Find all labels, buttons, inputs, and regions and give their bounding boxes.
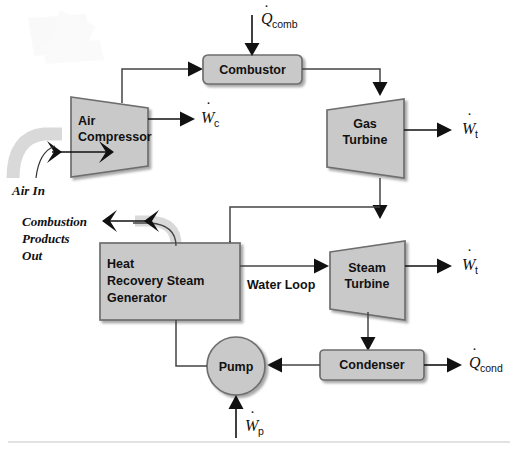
process-flow-diagram: Air Compressor Air In Combustor · Q bbox=[0, 0, 518, 454]
hrsg-to-steam-turbine-line bbox=[240, 259, 329, 274]
q-cond-arrow bbox=[424, 358, 462, 373]
condenser-to-pump-line bbox=[267, 358, 320, 373]
hrsg[interactable]: Heat Recovery Steam Generator bbox=[100, 243, 240, 320]
gas-turbine-label-line1: Gas bbox=[353, 117, 377, 131]
steam-turbine-label-line1: Steam bbox=[348, 261, 386, 275]
cpo-line3: Out bbox=[22, 248, 43, 263]
w-t-gas-symbol: · W t bbox=[462, 106, 478, 140]
cpo-line1: Combustion bbox=[22, 214, 87, 229]
q-comb-symbol: · Q comb bbox=[261, 0, 298, 30]
pump[interactable]: Pump bbox=[207, 337, 265, 395]
air-compressor-label-line1: Air bbox=[78, 114, 96, 128]
w-c-arrow bbox=[148, 112, 195, 127]
hrsg-label-line1: Heat bbox=[107, 257, 135, 271]
q-cond-subscript: cond bbox=[480, 362, 503, 374]
q-comb-subscript: comb bbox=[272, 18, 298, 30]
combustor-label: Combustor bbox=[219, 63, 286, 77]
q-cond-symbol: · Q cond bbox=[469, 341, 503, 374]
w-p-arrow bbox=[229, 395, 244, 438]
w-t-steam-subscript: t bbox=[475, 264, 478, 276]
steam-turbine-label-line2: Turbine bbox=[345, 277, 390, 291]
w-t-steam-symbol: · W t bbox=[462, 242, 478, 276]
pump-to-hrsg-line bbox=[176, 320, 207, 366]
background-watermark bbox=[28, 10, 104, 64]
w-p-subscript: p bbox=[258, 425, 264, 437]
q-comb-arrow bbox=[245, 15, 260, 56]
air-compressor[interactable]: Air Compressor bbox=[71, 97, 152, 177]
hrsg-label-line3: Generator bbox=[107, 291, 167, 305]
gas-turbine[interactable]: Gas Turbine bbox=[327, 99, 404, 178]
condenser[interactable]: Condenser bbox=[320, 350, 424, 380]
steam-turbine[interactable]: Steam Turbine bbox=[330, 241, 405, 320]
pump-label: Pump bbox=[219, 360, 254, 374]
w-t-steam-arrow bbox=[405, 259, 452, 274]
w-c-symbol: · W c bbox=[201, 95, 219, 129]
combustion-products-out-label: Combustion Products Out bbox=[22, 214, 87, 263]
w-t-gas-subscript: t bbox=[475, 128, 478, 140]
compressor-to-combustor-line bbox=[122, 62, 203, 104]
w-c-subscript: c bbox=[214, 117, 219, 129]
air-in-label: Air In bbox=[11, 183, 45, 198]
diagram-canvas: Air Compressor Air In Combustor · Q bbox=[0, 0, 518, 454]
steam-turbine-to-condenser-line bbox=[361, 312, 376, 351]
condenser-label: Condenser bbox=[339, 358, 404, 372]
w-p-symbol: · W p bbox=[245, 404, 264, 437]
cpo-line2: Products bbox=[22, 231, 70, 246]
water-loop-label: Water Loop bbox=[247, 278, 316, 292]
w-t-gas-arrow bbox=[404, 123, 452, 138]
combustor[interactable]: Combustor bbox=[203, 55, 302, 84]
combustor-to-gas-turbine-line bbox=[302, 69, 388, 96]
air-compressor-label-line2: Compressor bbox=[78, 130, 152, 144]
gas-turbine-label-line2: Turbine bbox=[343, 133, 388, 147]
hrsg-label-line2: Recovery Steam bbox=[107, 274, 204, 288]
